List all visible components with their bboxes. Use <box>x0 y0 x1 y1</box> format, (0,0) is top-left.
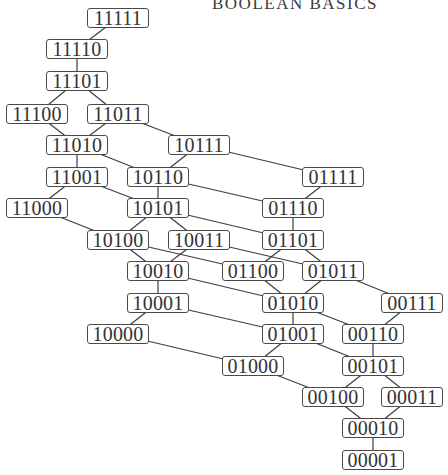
node-10101: 10101 <box>127 198 189 218</box>
node-11110: 11110 <box>46 39 108 59</box>
node-11111: 11111 <box>87 8 149 28</box>
node-01101: 01101 <box>262 230 324 250</box>
node-10110: 10110 <box>127 167 189 187</box>
node-11011: 11011 <box>87 104 149 124</box>
node-10001: 10001 <box>127 293 189 313</box>
node-00100: 00100 <box>302 387 364 407</box>
node-01100: 01100 <box>222 261 284 281</box>
node-00110: 00110 <box>342 324 404 344</box>
node-01000: 01000 <box>222 356 284 376</box>
node-01011: 01011 <box>302 261 364 281</box>
node-11000: 11000 <box>6 198 68 218</box>
node-00010: 00010 <box>342 418 404 438</box>
node-00111: 00111 <box>381 293 443 313</box>
node-01111: 01111 <box>302 167 364 187</box>
node-10000: 10000 <box>87 324 149 344</box>
node-10100: 10100 <box>87 230 149 250</box>
node-11101: 11101 <box>46 71 108 91</box>
node-11001: 11001 <box>46 167 108 187</box>
node-10111: 10111 <box>168 135 230 155</box>
node-11100: 11100 <box>6 104 68 124</box>
node-11010: 11010 <box>46 135 108 155</box>
node-10011: 10011 <box>168 230 230 250</box>
node-01110: 01110 <box>262 198 324 218</box>
node-01010: 01010 <box>262 293 324 313</box>
node-00101: 00101 <box>342 356 404 376</box>
node-10010: 10010 <box>127 261 189 281</box>
node-00011: 00011 <box>381 387 443 407</box>
node-00001: 00001 <box>342 450 404 470</box>
node-01001: 01001 <box>262 324 324 344</box>
